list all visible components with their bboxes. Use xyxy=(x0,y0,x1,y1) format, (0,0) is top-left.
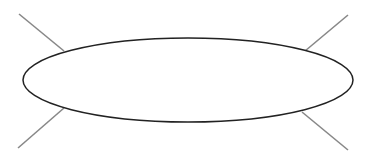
line-bottom-right xyxy=(302,112,348,150)
line-top-left xyxy=(19,14,64,51)
diagram-canvas xyxy=(0,0,372,152)
ellipse-shape xyxy=(23,38,353,122)
line-bottom-left xyxy=(18,108,64,148)
line-top-right xyxy=(305,15,348,51)
